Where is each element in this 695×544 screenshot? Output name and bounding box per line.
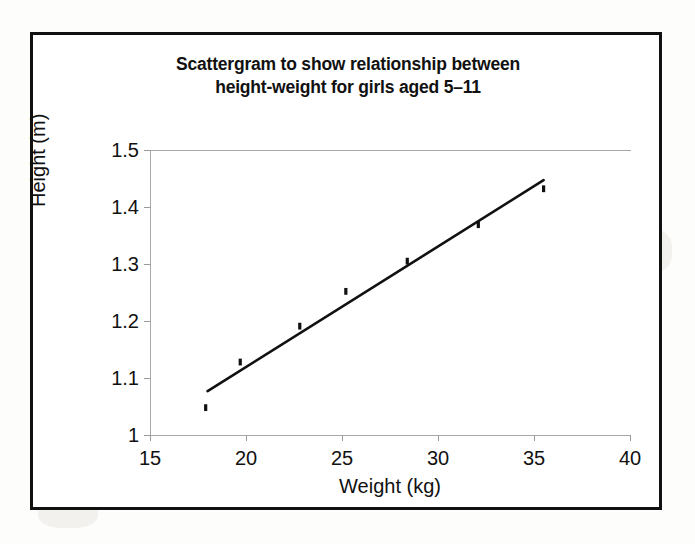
x-tick-label: 35 [523, 447, 545, 470]
scatter-markers [204, 185, 545, 411]
data-series-layer [150, 150, 631, 436]
x-axis-title: Weight (kg) [150, 475, 630, 498]
x-tick-label: 30 [427, 447, 449, 470]
x-tick-label: 15 [139, 447, 161, 470]
y-tick-label: 1 [128, 424, 139, 447]
chart-title-line-2: height-weight for girls aged 5–11 [78, 76, 618, 99]
scatter-point [406, 258, 409, 265]
y-tick-label: 1.4 [111, 196, 139, 219]
scatter-point [239, 359, 242, 366]
scatter-point [204, 404, 207, 411]
scanned-page: Scattergram to show relationship between… [0, 0, 695, 544]
trend-line [208, 180, 544, 391]
plot-area: 1.5 1.4 1.3 1.2 1.1 1 15 20 25 30 35 40 [150, 150, 630, 435]
y-axis-title: Height (m) [27, 114, 50, 207]
scatter-point [344, 288, 347, 295]
chart-title-line-1: Scattergram to show relationship between [78, 53, 618, 76]
y-tick-label: 1.5 [111, 139, 139, 162]
y-tick-label: 1.3 [111, 253, 139, 276]
y-tick-label: 1.2 [111, 310, 139, 333]
chart-title: Scattergram to show relationship between… [78, 53, 618, 99]
x-tick-label: 40 [619, 447, 641, 470]
x-tick-label: 20 [235, 447, 257, 470]
x-tick-label: 25 [331, 447, 353, 470]
chart-frame: Scattergram to show relationship between… [30, 32, 662, 510]
scatter-point [477, 221, 480, 228]
scatter-point [298, 323, 301, 330]
y-tick-label: 1.1 [111, 367, 139, 390]
scatter-point [542, 185, 545, 192]
trend-line-segment [208, 180, 544, 391]
